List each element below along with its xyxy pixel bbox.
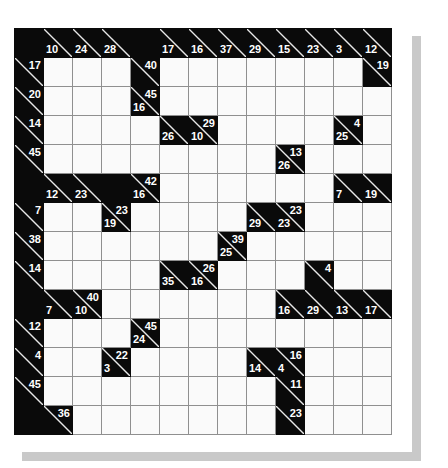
kakuro-empty-cell[interactable]: [44, 232, 73, 261]
kakuro-empty-cell[interactable]: [334, 406, 363, 435]
kakuro-empty-cell[interactable]: [160, 348, 189, 377]
kakuro-empty-cell[interactable]: [218, 377, 247, 406]
kakuro-empty-cell[interactable]: [160, 174, 189, 203]
kakuro-empty-cell[interactable]: [73, 348, 102, 377]
kakuro-empty-cell[interactable]: [102, 290, 131, 319]
kakuro-empty-cell[interactable]: [102, 319, 131, 348]
kakuro-empty-cell[interactable]: [73, 203, 102, 232]
kakuro-empty-cell[interactable]: [247, 406, 276, 435]
kakuro-empty-cell[interactable]: [247, 232, 276, 261]
kakuro-empty-cell[interactable]: [276, 174, 305, 203]
kakuro-empty-cell[interactable]: [305, 58, 334, 87]
kakuro-empty-cell[interactable]: [363, 116, 392, 145]
kakuro-empty-cell[interactable]: [363, 203, 392, 232]
kakuro-empty-cell[interactable]: [44, 319, 73, 348]
kakuro-empty-cell[interactable]: [247, 174, 276, 203]
kakuro-empty-cell[interactable]: [131, 261, 160, 290]
kakuro-empty-cell[interactable]: [73, 87, 102, 116]
kakuro-empty-cell[interactable]: [44, 377, 73, 406]
kakuro-empty-cell[interactable]: [189, 87, 218, 116]
kakuro-empty-cell[interactable]: [73, 406, 102, 435]
kakuro-empty-cell[interactable]: [44, 348, 73, 377]
kakuro-empty-cell[interactable]: [218, 319, 247, 348]
kakuro-empty-cell[interactable]: [102, 116, 131, 145]
kakuro-empty-cell[interactable]: [102, 87, 131, 116]
kakuro-empty-cell[interactable]: [305, 116, 334, 145]
kakuro-empty-cell[interactable]: [334, 145, 363, 174]
kakuro-empty-cell[interactable]: [334, 203, 363, 232]
kakuro-empty-cell[interactable]: [102, 232, 131, 261]
kakuro-empty-cell[interactable]: [305, 232, 334, 261]
kakuro-empty-cell[interactable]: [218, 203, 247, 232]
kakuro-empty-cell[interactable]: [276, 261, 305, 290]
kakuro-empty-cell[interactable]: [276, 232, 305, 261]
kakuro-empty-cell[interactable]: [247, 145, 276, 174]
kakuro-empty-cell[interactable]: [218, 58, 247, 87]
kakuro-empty-cell[interactable]: [73, 261, 102, 290]
kakuro-empty-cell[interactable]: [189, 348, 218, 377]
kakuro-empty-cell[interactable]: [363, 232, 392, 261]
kakuro-empty-cell[interactable]: [131, 290, 160, 319]
kakuro-empty-cell[interactable]: [160, 232, 189, 261]
kakuro-empty-cell[interactable]: [189, 145, 218, 174]
kakuro-empty-cell[interactable]: [305, 377, 334, 406]
kakuro-empty-cell[interactable]: [131, 145, 160, 174]
kakuro-empty-cell[interactable]: [218, 87, 247, 116]
kakuro-empty-cell[interactable]: [102, 377, 131, 406]
kakuro-empty-cell[interactable]: [160, 406, 189, 435]
kakuro-empty-cell[interactable]: [131, 203, 160, 232]
kakuro-empty-cell[interactable]: [102, 145, 131, 174]
kakuro-empty-cell[interactable]: [218, 145, 247, 174]
kakuro-empty-cell[interactable]: [131, 232, 160, 261]
kakuro-empty-cell[interactable]: [189, 174, 218, 203]
kakuro-empty-cell[interactable]: [44, 87, 73, 116]
kakuro-empty-cell[interactable]: [247, 377, 276, 406]
kakuro-empty-cell[interactable]: [334, 377, 363, 406]
kakuro-empty-cell[interactable]: [189, 58, 218, 87]
kakuro-empty-cell[interactable]: [247, 58, 276, 87]
kakuro-empty-cell[interactable]: [44, 203, 73, 232]
kakuro-empty-cell[interactable]: [131, 348, 160, 377]
kakuro-empty-cell[interactable]: [334, 87, 363, 116]
kakuro-empty-cell[interactable]: [276, 116, 305, 145]
kakuro-empty-cell[interactable]: [131, 377, 160, 406]
kakuro-empty-cell[interactable]: [73, 377, 102, 406]
kakuro-empty-cell[interactable]: [44, 116, 73, 145]
kakuro-empty-cell[interactable]: [218, 406, 247, 435]
kakuro-empty-cell[interactable]: [160, 290, 189, 319]
kakuro-empty-cell[interactable]: [160, 87, 189, 116]
kakuro-empty-cell[interactable]: [305, 174, 334, 203]
kakuro-empty-cell[interactable]: [160, 145, 189, 174]
kakuro-empty-cell[interactable]: [131, 116, 160, 145]
kakuro-empty-cell[interactable]: [189, 377, 218, 406]
kakuro-empty-cell[interactable]: [305, 145, 334, 174]
kakuro-empty-cell[interactable]: [73, 58, 102, 87]
kakuro-empty-cell[interactable]: [218, 348, 247, 377]
kakuro-empty-cell[interactable]: [334, 232, 363, 261]
kakuro-empty-cell[interactable]: [73, 319, 102, 348]
kakuro-empty-cell[interactable]: [247, 319, 276, 348]
kakuro-empty-cell[interactable]: [363, 319, 392, 348]
kakuro-empty-cell[interactable]: [305, 319, 334, 348]
kakuro-empty-cell[interactable]: [73, 116, 102, 145]
kakuro-empty-cell[interactable]: [305, 348, 334, 377]
kakuro-empty-cell[interactable]: [189, 232, 218, 261]
kakuro-empty-cell[interactable]: [218, 290, 247, 319]
kakuro-empty-cell[interactable]: [363, 145, 392, 174]
kakuro-empty-cell[interactable]: [218, 261, 247, 290]
kakuro-empty-cell[interactable]: [160, 58, 189, 87]
kakuro-empty-cell[interactable]: [363, 377, 392, 406]
kakuro-empty-cell[interactable]: [189, 406, 218, 435]
kakuro-empty-cell[interactable]: [334, 348, 363, 377]
kakuro-empty-cell[interactable]: [189, 290, 218, 319]
kakuro-empty-cell[interactable]: [44, 145, 73, 174]
kakuro-empty-cell[interactable]: [218, 116, 247, 145]
kakuro-empty-cell[interactable]: [247, 116, 276, 145]
kakuro-empty-cell[interactable]: [276, 58, 305, 87]
kakuro-empty-cell[interactable]: [334, 261, 363, 290]
kakuro-empty-cell[interactable]: [363, 87, 392, 116]
kakuro-empty-cell[interactable]: [247, 261, 276, 290]
kakuro-empty-cell[interactable]: [131, 406, 160, 435]
kakuro-empty-cell[interactable]: [276, 319, 305, 348]
kakuro-empty-cell[interactable]: [305, 406, 334, 435]
